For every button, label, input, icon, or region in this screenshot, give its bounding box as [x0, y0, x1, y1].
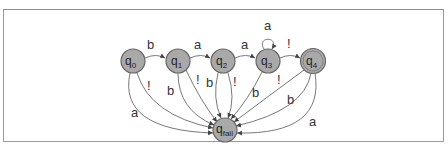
edge-q3-q3-loop: a: [262, 18, 273, 49]
svg-text:!: !: [233, 74, 237, 89]
edge-q2-q3: a: [235, 37, 255, 58]
svg-text:b: b: [206, 75, 213, 90]
svg-text:b: b: [147, 37, 154, 52]
svg-text:a: a: [264, 18, 272, 33]
state-qfail: qfail: [213, 118, 237, 142]
svg-text:!: !: [196, 72, 200, 87]
svg-text:!: !: [147, 78, 151, 93]
svg-text:b: b: [252, 85, 259, 100]
edge-q2-qfail-bang: !: [228, 73, 237, 118]
svg-text:!: !: [287, 36, 291, 51]
state-q1: q1: [166, 49, 190, 73]
edge-q0-q1: b: [145, 37, 165, 58]
svg-text:a: a: [131, 105, 139, 120]
state-q4-accepting: q4: [301, 49, 326, 74]
state-q3: q3: [256, 49, 280, 73]
edge-q0-qfail-bang: !: [137, 73, 213, 128]
svg-text:!: !: [277, 72, 281, 87]
svg-text:a: a: [241, 37, 249, 52]
svg-text:b: b: [167, 83, 174, 98]
edge-q0-qfail-a: a: [129, 73, 213, 133]
svg-text:a: a: [194, 37, 202, 52]
svg-text:b: b: [287, 92, 294, 107]
svg-text:a: a: [309, 114, 317, 129]
edge-q2-qfail-b: b: [206, 73, 221, 118]
automaton-diagram: b a a a ! ! a ! b b ! b: [0, 0, 448, 154]
state-q0: q0: [121, 49, 145, 73]
edge-q4-qfail-b: b: [236, 73, 311, 126]
state-q2: q2: [211, 49, 235, 73]
edge-q1-q2: a: [190, 37, 210, 58]
edge-q3-q4: !: [280, 36, 300, 58]
